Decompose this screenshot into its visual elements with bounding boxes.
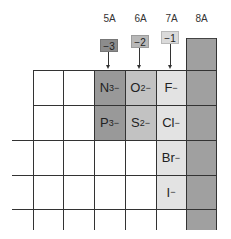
group-header-7a: 7A: [156, 13, 187, 24]
ion-symbol: N: [100, 80, 109, 95]
ion-cell-s: S2−: [125, 105, 156, 140]
arrow-5a: [108, 52, 109, 66]
charge-badge-5a: −3: [100, 39, 118, 52]
grid-line-v: [63, 70, 64, 230]
group-8a-column: [186, 38, 217, 230]
grid-line-v: [94, 70, 95, 230]
arrowhead-5a-icon: [106, 65, 110, 69]
ion-symbol: O: [130, 80, 140, 95]
charge-badge-6a: −2: [131, 35, 149, 48]
group-8a-top-border: [186, 38, 217, 39]
ion-symbol: Cl: [162, 115, 174, 130]
charge-badge-7a: −1: [161, 31, 179, 44]
arrowhead-6a-icon: [137, 65, 141, 69]
ion-symbol: S: [131, 115, 140, 130]
ion-cell-o: O2−: [125, 70, 156, 105]
grid-line-v: [125, 70, 126, 230]
ion-cell-br: Br−: [156, 140, 186, 175]
grid-line-v: [33, 70, 34, 230]
ion-cell-f: F−: [156, 70, 186, 105]
ion-cell-cl: Cl−: [156, 105, 186, 140]
group-header-6a: 6A: [125, 13, 156, 24]
group-header-8a: 8A: [186, 13, 217, 24]
ion-symbol: Br: [162, 150, 175, 165]
ion-symbol: P: [100, 115, 109, 130]
grid-line-v: [216, 38, 217, 230]
arrow-7a: [170, 44, 171, 66]
grid-line-v: [156, 70, 157, 230]
arrowhead-7a-icon: [168, 65, 172, 69]
ion-symbol: F: [164, 80, 172, 95]
arrow-6a: [139, 48, 140, 66]
grid-line-v: [186, 38, 187, 230]
group-header-5a: 5A: [94, 13, 125, 24]
ion-cell-i: I−: [156, 175, 186, 209]
ion-cell-p: P3−: [94, 105, 125, 140]
ion-cell-n: N3−: [94, 70, 125, 105]
